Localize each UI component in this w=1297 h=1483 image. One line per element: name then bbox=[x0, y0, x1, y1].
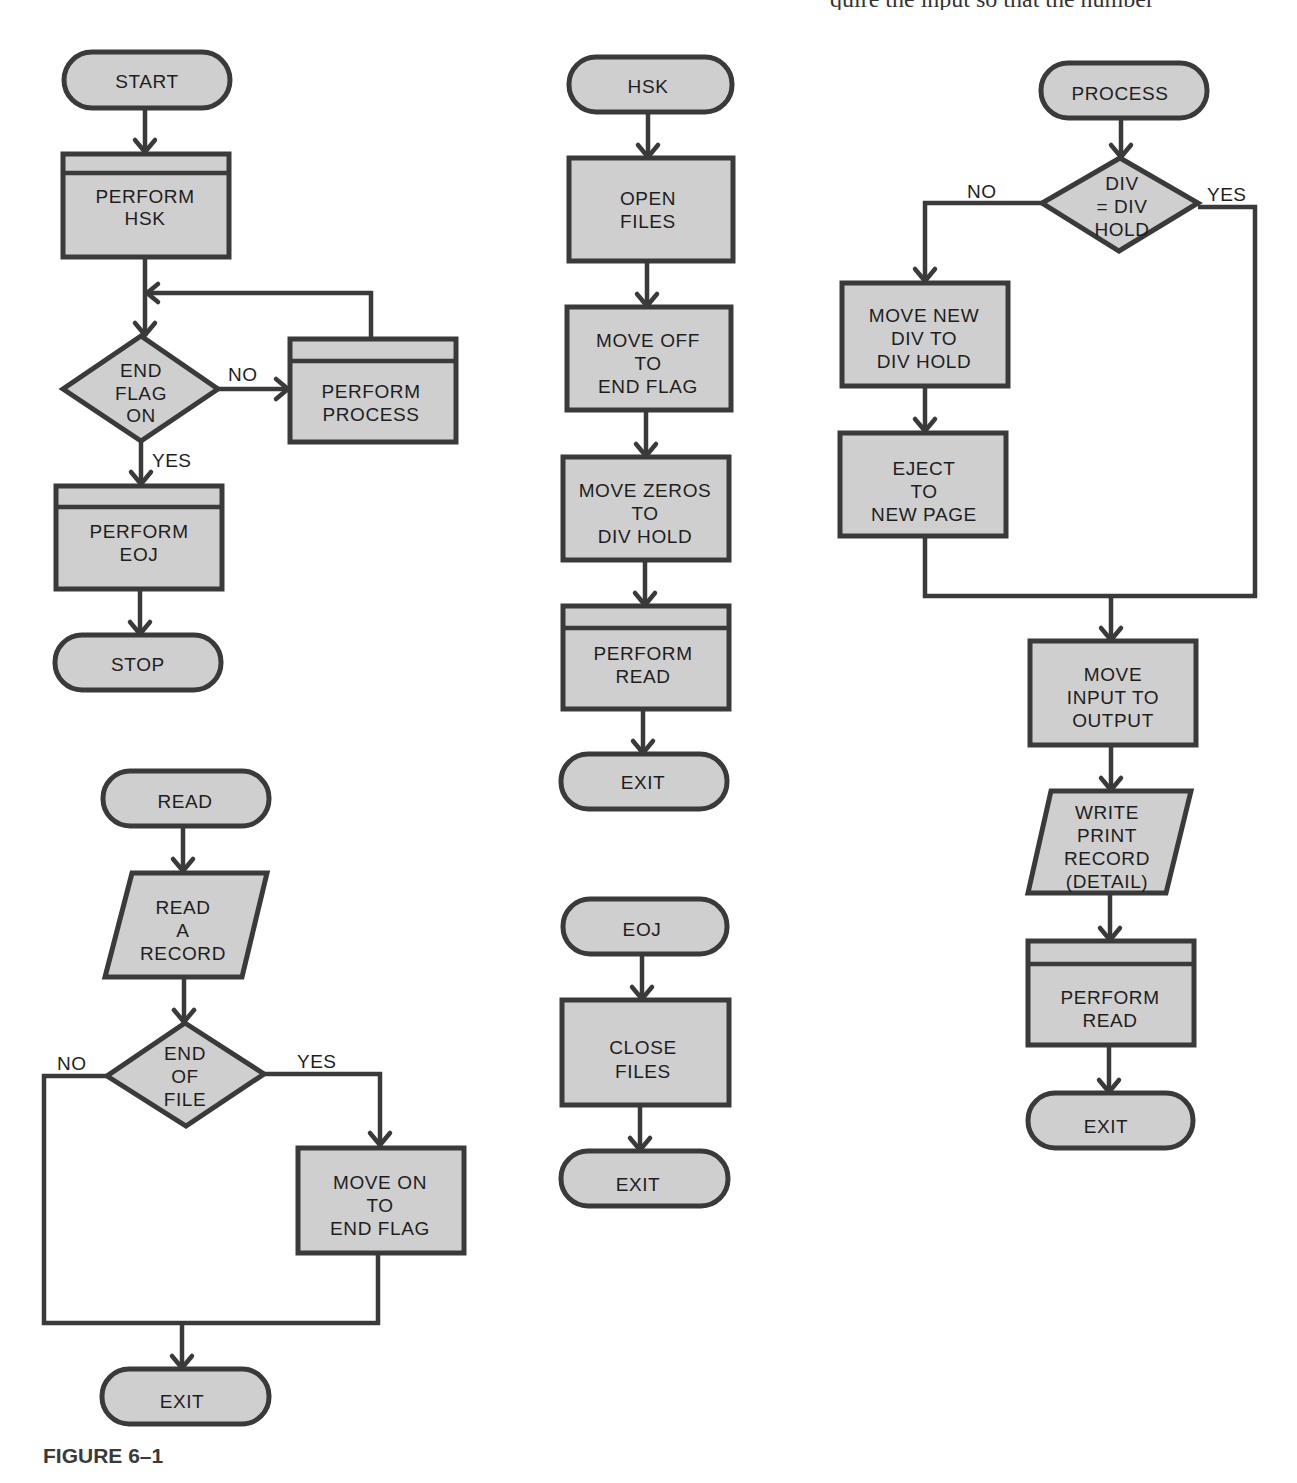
svg-text:PERFORM: PERFORM bbox=[321, 381, 420, 402]
svg-text:DIV TO: DIV TO bbox=[891, 328, 957, 349]
svg-text:CLOSE: CLOSE bbox=[609, 1037, 676, 1058]
io-write-print-record: WRITE PRINT RECORD (DETAIL) bbox=[1028, 791, 1191, 893]
svg-text:PERFORM: PERFORM bbox=[95, 186, 194, 207]
branch-label-no: NO bbox=[57, 1053, 87, 1074]
process-move-new-div-to-div-hold: MOVE NEW DIV TO DIV HOLD bbox=[842, 283, 1008, 386]
process-move-input-to-output: MOVE INPUT TO OUTPUT bbox=[1030, 641, 1196, 745]
terminal-read-exit: EXIT bbox=[102, 1369, 269, 1424]
svg-text:FILE: FILE bbox=[164, 1089, 207, 1110]
svg-text:(DETAIL): (DETAIL) bbox=[1066, 871, 1149, 892]
io-read-a-record: READ A RECORD bbox=[105, 873, 267, 977]
svg-text:STOP: STOP bbox=[111, 654, 165, 675]
terminal-start: START bbox=[64, 52, 230, 108]
decision-end-of-file: END OF FILE bbox=[107, 1023, 264, 1126]
svg-text:END: END bbox=[120, 360, 162, 381]
svg-text:READ: READ bbox=[615, 666, 670, 687]
terminal-hsk-exit: EXIT bbox=[561, 754, 727, 809]
hsk-flowchart: HSK OPEN FILES MOVE OFF TO END FLAG MOVE… bbox=[561, 57, 733, 809]
svg-text:OF: OF bbox=[171, 1066, 199, 1087]
svg-text:EOJ: EOJ bbox=[623, 919, 662, 940]
predefined-process-perform-eoj: PERFORM EOJ bbox=[56, 486, 222, 589]
svg-text:EXIT: EXIT bbox=[616, 1174, 661, 1195]
terminal-start-label: START bbox=[115, 71, 179, 92]
svg-text:MOVE ZEROS: MOVE ZEROS bbox=[579, 480, 712, 501]
svg-text:PROCESS: PROCESS bbox=[1071, 83, 1168, 104]
process-move-off-to-end-flag: MOVE OFF TO END FLAG bbox=[567, 307, 731, 410]
svg-text:EXIT: EXIT bbox=[1084, 1116, 1129, 1137]
terminal-eoj-exit: EXIT bbox=[561, 1151, 728, 1206]
predefined-process-perform-read: PERFORM READ bbox=[1028, 941, 1194, 1045]
svg-text:ON: ON bbox=[126, 405, 156, 426]
svg-text:PRINT: PRINT bbox=[1077, 825, 1137, 846]
svg-text:READ: READ bbox=[1082, 1010, 1137, 1031]
svg-text:FILES: FILES bbox=[615, 1061, 671, 1082]
svg-text:EXIT: EXIT bbox=[621, 772, 666, 793]
svg-text:PERFORM: PERFORM bbox=[1060, 987, 1159, 1008]
svg-text:A: A bbox=[176, 920, 189, 941]
svg-text:HOLD: HOLD bbox=[1094, 219, 1149, 240]
figure-caption: FIGURE 6–1 bbox=[43, 1444, 164, 1467]
terminal-read: READ bbox=[103, 771, 269, 826]
svg-text:DIV: DIV bbox=[1105, 173, 1138, 194]
svg-text:END FLAG: END FLAG bbox=[330, 1218, 430, 1239]
decision-div-equals-div-hold: DIV = DIV HOLD bbox=[1042, 158, 1198, 251]
svg-text:DIV HOLD: DIV HOLD bbox=[598, 526, 693, 547]
svg-text:MOVE: MOVE bbox=[1084, 664, 1142, 685]
terminal-stop: STOP bbox=[55, 635, 221, 690]
process-flowchart: PROCESS DIV = DIV HOLD NO YES MOVE NEW D… bbox=[840, 63, 1255, 1148]
svg-text:PROCESS: PROCESS bbox=[322, 404, 419, 425]
branch-label-yes: YES bbox=[1207, 184, 1247, 205]
branch-label-yes: YES bbox=[297, 1051, 337, 1072]
svg-text:READ: READ bbox=[157, 791, 212, 812]
predefined-process-perform-read: PERFORM READ bbox=[563, 606, 729, 709]
svg-text:DIV HOLD: DIV HOLD bbox=[877, 351, 972, 372]
svg-text:MOVE NEW: MOVE NEW bbox=[869, 305, 979, 326]
svg-text:INPUT TO: INPUT TO bbox=[1067, 687, 1159, 708]
process-close-files: CLOSE FILES bbox=[562, 1000, 729, 1105]
svg-text:RECORD: RECORD bbox=[1064, 848, 1150, 869]
svg-text:END: END bbox=[164, 1043, 206, 1064]
main-flowchart: START PERFORM HSK END FLAG ON NO bbox=[55, 52, 456, 690]
svg-text:PERFORM: PERFORM bbox=[593, 643, 692, 664]
svg-text:MOVE ON: MOVE ON bbox=[333, 1172, 427, 1193]
svg-text:EOJ: EOJ bbox=[120, 544, 159, 565]
svg-text:OPEN: OPEN bbox=[620, 188, 676, 209]
svg-text:HSK: HSK bbox=[628, 76, 669, 97]
svg-text:EJECT: EJECT bbox=[892, 458, 955, 479]
svg-text:FLAG: FLAG bbox=[115, 383, 167, 404]
svg-text:TO: TO bbox=[631, 503, 658, 524]
svg-text:READ: READ bbox=[155, 897, 210, 918]
svg-text:FILES: FILES bbox=[620, 211, 676, 232]
branch-label-no: NO bbox=[228, 364, 258, 385]
decision-end-flag-on: END FLAG ON bbox=[63, 336, 218, 441]
svg-text:PERFORM: PERFORM bbox=[89, 521, 188, 542]
svg-text:WRITE: WRITE bbox=[1075, 802, 1139, 823]
branch-label-no: NO bbox=[967, 181, 997, 202]
svg-text:END FLAG: END FLAG bbox=[598, 376, 698, 397]
terminal-eoj: EOJ bbox=[563, 899, 727, 954]
eoj-flowchart: EOJ CLOSE FILES EXIT bbox=[561, 899, 729, 1206]
svg-text:NEW PAGE: NEW PAGE bbox=[871, 504, 977, 525]
process-move-on-to-end-flag: MOVE ON TO END FLAG bbox=[298, 1148, 464, 1253]
process-move-zeros-to-div-hold: MOVE ZEROS TO DIV HOLD bbox=[563, 457, 729, 560]
svg-text:TO: TO bbox=[634, 353, 661, 374]
svg-text:HSK: HSK bbox=[125, 208, 166, 229]
svg-text:= DIV: = DIV bbox=[1096, 196, 1147, 217]
terminal-process: PROCESS bbox=[1041, 63, 1207, 118]
process-eject-to-new-page: EJECT TO NEW PAGE bbox=[840, 433, 1006, 536]
svg-text:EXIT: EXIT bbox=[160, 1391, 205, 1412]
predefined-process-perform-process: PERFORM PROCESS bbox=[290, 339, 456, 442]
predefined-process-perform-hsk: PERFORM HSK bbox=[63, 154, 229, 257]
svg-text:MOVE OFF: MOVE OFF bbox=[596, 330, 700, 351]
svg-text:TO: TO bbox=[910, 481, 937, 502]
read-flowchart: READ READ A RECORD END OF FILE NO YES MO… bbox=[44, 771, 464, 1424]
flowchart-figure: START PERFORM HSK END FLAG ON NO bbox=[0, 0, 1297, 1483]
terminal-hsk: HSK bbox=[569, 57, 732, 112]
terminal-process-exit: EXIT bbox=[1028, 1093, 1193, 1148]
svg-text:TO: TO bbox=[366, 1195, 393, 1216]
svg-text:RECORD: RECORD bbox=[140, 943, 226, 964]
svg-text:OUTPUT: OUTPUT bbox=[1072, 710, 1154, 731]
branch-label-yes: YES bbox=[152, 450, 192, 471]
process-open-files: OPEN FILES bbox=[569, 158, 733, 261]
